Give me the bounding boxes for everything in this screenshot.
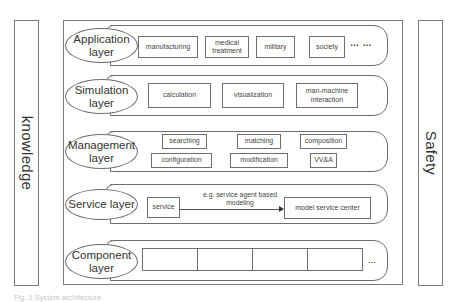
application-label-line1: Application xyxy=(73,33,129,45)
composition-box: composition xyxy=(300,134,347,149)
application-layer-label: Application layer xyxy=(65,28,138,63)
visualization-box: visualization xyxy=(222,83,284,108)
vva-box: VV&A xyxy=(310,153,337,168)
service-to-center-arrow-line xyxy=(180,209,279,210)
knowledge-label: knowledge xyxy=(18,116,35,190)
application-more-ellipsis: … … xyxy=(350,38,372,48)
service-layer-label-text: Service layer xyxy=(68,198,134,211)
searching-label: searching xyxy=(169,137,199,146)
safety-bar: Safety xyxy=(418,20,443,286)
man-machine-label: man-machine xyxy=(306,87,348,94)
model-service-center-label: model service center xyxy=(295,204,360,213)
matching-box: matching xyxy=(237,134,281,149)
modification-label: modification xyxy=(240,156,277,165)
management-layer-label: Management layer xyxy=(65,134,138,169)
simulation-label-line1: Simulation xyxy=(75,84,129,96)
application-label-line2: layer xyxy=(89,46,114,58)
vva-label: VV&A xyxy=(314,156,333,165)
composition-label: composition xyxy=(305,137,342,146)
calculation-box: calculation xyxy=(148,83,211,108)
component-more-ellipsis: … xyxy=(368,256,377,265)
medical-label: medical xyxy=(215,39,239,46)
component-cell xyxy=(253,249,308,270)
configuration-box: configuration xyxy=(151,153,212,168)
component-cell xyxy=(143,249,198,270)
knowledge-bar: knowledge xyxy=(14,20,39,286)
calculation-label: calculation xyxy=(163,91,196,100)
matching-label: matching xyxy=(245,137,273,146)
treatment-label: treatment xyxy=(212,47,242,54)
man-machine-interaction-box: man-machine interaction xyxy=(296,83,358,108)
component-cells xyxy=(142,248,363,271)
searching-box: searching xyxy=(162,134,207,149)
arrow-note-line2: modeling xyxy=(226,199,254,206)
component-cell xyxy=(198,249,253,270)
simulation-label-line2: layer xyxy=(89,97,114,109)
manufacturing-label: manufacturing xyxy=(146,43,190,52)
component-cell xyxy=(308,249,362,270)
visualization-label: visualization xyxy=(234,91,272,100)
component-label-line2: layer xyxy=(89,262,114,274)
arrow-note-line1: e.g. service agent based xyxy=(203,191,277,198)
simulation-layer-label: Simulation layer xyxy=(65,79,138,114)
manufacturing-box: manufacturing xyxy=(138,36,198,58)
society-box: society xyxy=(309,36,345,58)
modification-box: modification xyxy=(230,153,288,168)
model-service-center-box: model service center xyxy=(284,197,371,219)
service-label: service xyxy=(152,203,174,212)
management-label-line1: Management xyxy=(68,139,135,151)
medical-treatment-box: medical treatment xyxy=(205,36,249,58)
society-label: society xyxy=(316,43,338,52)
figure-caption: Fig. 1 System architecture xyxy=(14,293,101,302)
component-label-line1: Component xyxy=(72,249,131,261)
service-arrow-note: e.g. service agent based modeling xyxy=(185,191,295,207)
service-layer-label: Service layer xyxy=(65,189,138,220)
management-label-line2: layer xyxy=(89,152,114,164)
interaction-label: interaction xyxy=(311,96,343,103)
military-box: military xyxy=(256,36,295,58)
safety-label: Safety xyxy=(422,131,439,175)
service-box: service xyxy=(147,197,180,218)
military-label: military xyxy=(264,43,286,52)
configuration-label: configuration xyxy=(161,156,201,165)
component-layer-label: Component layer xyxy=(65,244,138,279)
